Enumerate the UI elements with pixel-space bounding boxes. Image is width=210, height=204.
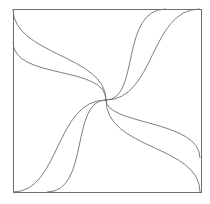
curve-group (13, 9, 200, 192)
curve-bl-1 (13, 100, 106, 192)
curve-tl-2 (13, 42, 106, 100)
curve-br-2 (106, 100, 200, 158)
diagram-svg (0, 0, 210, 204)
curve-tl-1 (13, 9, 106, 100)
pinwheel-diagram (0, 0, 210, 204)
curve-tr-1 (106, 9, 200, 100)
curve-tr-2 (106, 9, 166, 100)
square-frame (14, 10, 202, 193)
